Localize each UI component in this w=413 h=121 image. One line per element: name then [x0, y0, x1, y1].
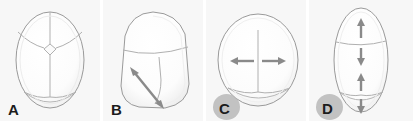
skull-outline [121, 12, 189, 108]
panel-a: A [0, 0, 100, 121]
panel-d: D [309, 0, 413, 121]
panel-label-c: C [219, 101, 230, 116]
panel-label-a: A [8, 102, 19, 117]
cranial-vault-figure: A B [0, 0, 413, 121]
panel-c: C [206, 0, 306, 121]
panel-b: B [103, 0, 203, 121]
panel-label-d: D [322, 101, 333, 116]
panel-label-b: B [111, 102, 122, 117]
